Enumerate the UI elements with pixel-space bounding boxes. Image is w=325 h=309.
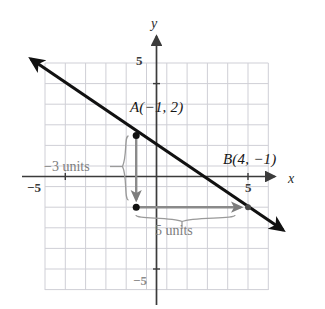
- point-corner-marker: [133, 204, 140, 211]
- point-b-marker: [245, 204, 251, 210]
- figure-canvas: y x 5 −5 −5 5 A(−1, 2) B(4, −1) −3 units…: [0, 0, 325, 309]
- point-a-marker: [133, 132, 140, 139]
- coordinate-plane-graphic: [0, 0, 325, 309]
- run-brace: [136, 215, 235, 229]
